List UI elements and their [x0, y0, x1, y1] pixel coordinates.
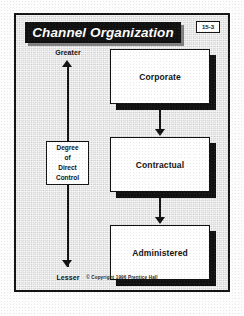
slide-number-text: 15-3 — [202, 24, 214, 30]
connector-corporate-to-contractual — [159, 104, 161, 130]
slide-page: Channel Organization 15-3 Greater Degree… — [0, 0, 244, 316]
connector-arrow-icon-1 — [155, 129, 165, 136]
node-face: Corporate — [110, 49, 210, 104]
node-corporate: Corporate — [110, 49, 210, 104]
arrow-down-icon — [62, 260, 72, 267]
node-label-corporate: Corporate — [139, 72, 181, 82]
degree-caption-line-3: Direct — [58, 163, 76, 173]
degree-caption-line-2: of — [64, 153, 70, 163]
node-face: Contractual — [110, 137, 210, 192]
degree-caption-line-4: Control — [56, 173, 79, 183]
degree-of-control-caption-box: Degree of Direct Control — [46, 141, 89, 185]
connector-arrow-icon-2 — [155, 217, 165, 224]
degree-of-control-axis: Greater Degree of Direct Control Lesser — [32, 49, 104, 281]
connector-contractual-to-administered — [159, 192, 161, 218]
channel-flow-diagram: Corporate Contractual Administered — [110, 49, 218, 281]
title-bar: Channel Organization — [25, 22, 181, 43]
node-administered: Administered — [110, 225, 210, 280]
node-label-administered: Administered — [132, 248, 188, 258]
node-label-contractual: Contractual — [136, 160, 184, 170]
arrow-up-icon — [62, 60, 72, 67]
slide-frame: Channel Organization 15-3 Greater Degree… — [14, 13, 230, 292]
copyright-footer: © Copyright 1996 Prentice Hall — [16, 275, 228, 280]
slide-number-badge: 15-3 — [196, 21, 220, 33]
node-contractual: Contractual — [110, 137, 210, 192]
page-title: Channel Organization — [32, 25, 174, 40]
degree-caption-line-1: Degree — [56, 143, 78, 153]
axis-label-greater: Greater — [32, 49, 104, 56]
node-face: Administered — [110, 225, 210, 280]
